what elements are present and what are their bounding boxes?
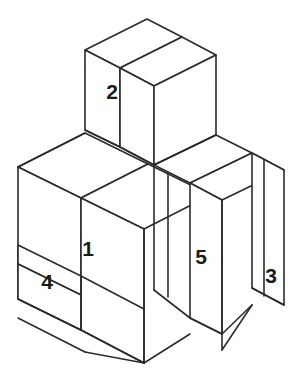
block-label-3: 3 (265, 264, 277, 287)
edge-step-bottom-right (222, 305, 252, 334)
block-label-4: 4 (41, 270, 53, 293)
edge-block5-lower-slope (154, 290, 190, 318)
block-label-5: 5 (195, 245, 207, 268)
isometric-block-diagram: 1 2 3 4 5 (0, 0, 305, 380)
edge-step-bottom-far (222, 305, 252, 350)
isometric-figure-container: 1 2 3 4 5 (0, 0, 305, 380)
block-label-1: 1 (82, 237, 94, 260)
edge-bottom-to-step (144, 334, 190, 363)
block-label-2: 2 (106, 80, 118, 103)
